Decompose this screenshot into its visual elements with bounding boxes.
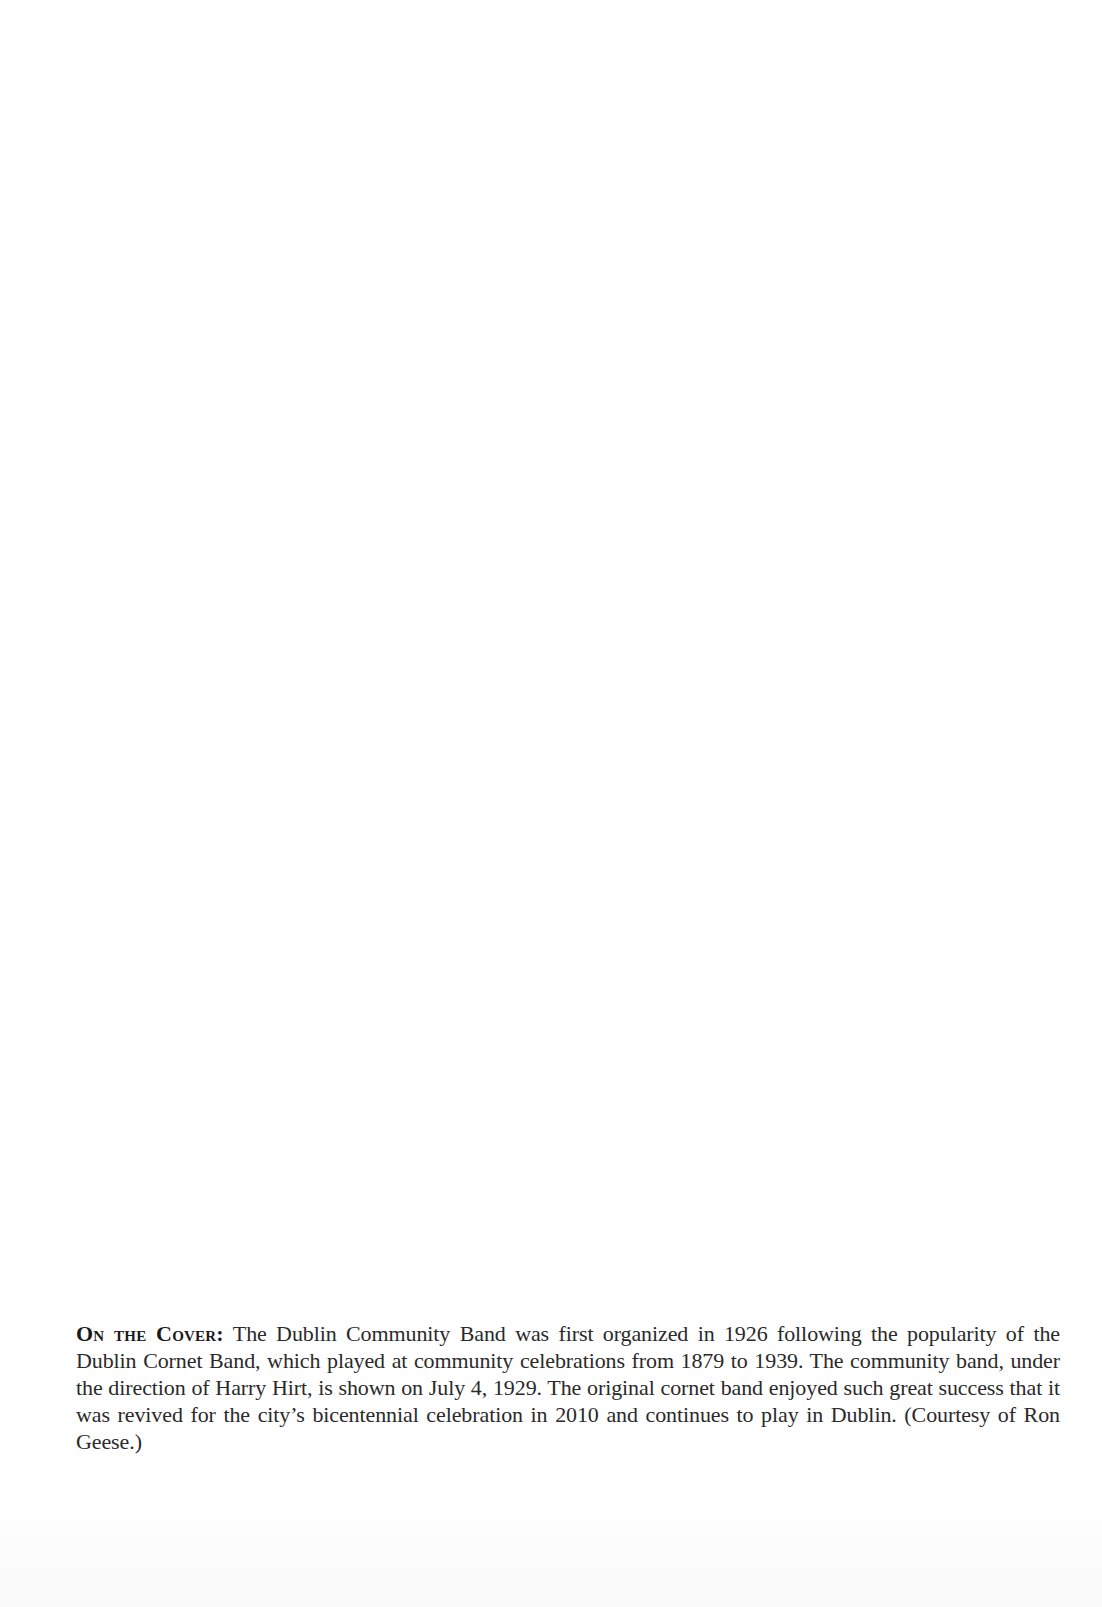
document-page: On the Cover: The Dublin Community Band … xyxy=(0,0,1102,1607)
caption-text: The Dublin Community Band was first orga… xyxy=(76,1321,1060,1454)
caption-label: On the Cover: xyxy=(76,1321,224,1346)
cover-caption: On the Cover: The Dublin Community Band … xyxy=(76,1320,1060,1455)
